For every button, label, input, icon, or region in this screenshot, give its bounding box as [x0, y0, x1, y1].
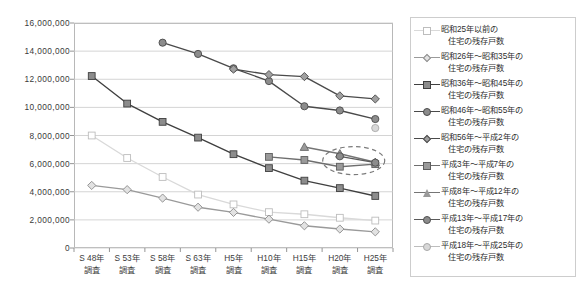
legend-label-line2: 住宅の残存戸数 [441, 63, 523, 75]
legend-item-9[interactable]: 平成18年～平成25年の住宅の残存戸数 [413, 240, 573, 267]
legend-label-line1: 昭和36年～昭和45年の [441, 78, 523, 90]
legend-item-5[interactable]: 昭和56年～平成2年の住宅の残存戸数 [413, 132, 573, 159]
legend-marker-glyph [423, 81, 431, 89]
legend-marker-circle-icon [413, 241, 441, 252]
x-tick-line1: H25年 [352, 252, 398, 264]
legend-marker-glyph [423, 162, 431, 170]
legend-label: 昭和26年～昭和35年の住宅の残存戸数 [441, 51, 523, 74]
legend-marker-glyph [423, 243, 431, 251]
legend-item-6[interactable]: 平成3年～平成7年の住宅の残存戸数 [413, 159, 573, 186]
legend-label: 平成8年～平成12年の住宅の残存戸数 [441, 186, 519, 209]
y-axis-tick-label: 0 [4, 243, 70, 253]
legend-marker-glyph [423, 134, 431, 142]
y-axis-tick-label: 10,000,000 [4, 102, 70, 112]
x-axis-tick-label: H25年調査 [352, 252, 398, 276]
legend-label-line1: 平成3年～平成7年の [441, 159, 514, 171]
legend-label-line1: 昭和26年～昭和35年の [441, 51, 523, 63]
legend-label-line2: 住宅の残存戸数 [441, 90, 523, 102]
legend-label-line1: 昭和25年以前の [441, 24, 504, 36]
legend-label-line2: 住宅の残存戸数 [441, 171, 514, 183]
legend-label-line2: 住宅の残存戸数 [441, 144, 519, 156]
legend-label-line2: 住宅の残存戸数 [441, 36, 504, 48]
legend-label-line2: 住宅の残存戸数 [441, 117, 523, 129]
y-axis-tick-label: 14,000,000 [4, 46, 70, 56]
legend-label-line1: 平成13年～平成17年の [441, 213, 523, 225]
plot-area [74, 23, 393, 248]
y-axis-tick-label: 12,000,000 [4, 74, 70, 84]
chart-legend: 昭和25年以前の住宅の残存戸数昭和26年～昭和35年の住宅の残存戸数昭和36年～… [410, 17, 576, 277]
legend-label: 昭和36年～昭和45年の住宅の残存戸数 [441, 78, 523, 101]
legend-label-line1: 昭和56年～平成2年の [441, 132, 519, 144]
legend-item-1[interactable]: 昭和25年以前の住宅の残存戸数 [413, 24, 573, 51]
y-axis-tick-label: 4,000,000 [4, 187, 70, 197]
legend-marker-glyph [423, 27, 431, 35]
legend-marker-glyph [423, 108, 431, 116]
legend-label: 平成18年～平成25年の住宅の残存戸数 [441, 240, 523, 263]
legend-marker-square-icon [413, 25, 441, 36]
legend-item-4[interactable]: 昭和46年～昭和55年の住宅の残存戸数 [413, 105, 573, 132]
legend-marker-glyph [423, 53, 431, 61]
legend-marker-square-icon [413, 79, 441, 90]
y-axis-tick-label: 8,000,000 [4, 131, 70, 141]
legend-label-line2: 住宅の残存戸数 [441, 198, 519, 210]
legend-marker-triangle-icon [413, 187, 441, 198]
legend-item-7[interactable]: 平成8年～平成12年の住宅の残存戸数 [413, 186, 573, 213]
legend-marker-glyph [423, 189, 431, 197]
y-axis-tick-label: 16,000,000 [4, 18, 70, 28]
chart-root: 16,000,00014,000,00012,000,00010,000,000… [0, 0, 583, 295]
legend-marker-circle-icon [413, 214, 441, 225]
legend-item-2[interactable]: 昭和26年～昭和35年の住宅の残存戸数 [413, 51, 573, 78]
legend-label-line1: 昭和46年～昭和55年の [441, 105, 523, 117]
legend-label: 昭和46年～昭和55年の住宅の残存戸数 [441, 105, 523, 128]
x-tick-line2: 調査 [352, 264, 398, 276]
legend-marker-square-icon [413, 160, 441, 171]
legend-label: 昭和25年以前の住宅の残存戸数 [441, 24, 504, 47]
y-axis-tick-label: 6,000,000 [4, 159, 70, 169]
legend-label-line1: 平成18年～平成25年の [441, 240, 523, 252]
y-axis-labels: 16,000,00014,000,00012,000,00010,000,000… [2, 23, 70, 248]
legend-marker-diamond-icon [413, 52, 441, 63]
legend-marker-glyph [423, 216, 431, 224]
x-axis-labels: S 48年調査S 53年調査S 58年調査S 63年調査H5年調査H10年調査H… [74, 252, 393, 292]
legend-item-3[interactable]: 昭和36年～昭和45年の住宅の残存戸数 [413, 78, 573, 105]
legend-marker-circle-icon [413, 106, 441, 117]
legend-item-8[interactable]: 平成13年～平成17年の住宅の残存戸数 [413, 213, 573, 240]
legend-label-line1: 平成8年～平成12年の [441, 186, 519, 198]
legend-label-line2: 住宅の残存戸数 [441, 252, 523, 264]
legend-label: 昭和56年～平成2年の住宅の残存戸数 [441, 132, 519, 155]
legend-marker-diamond-icon [413, 133, 441, 144]
y-axis-tick-label: 2,000,000 [4, 215, 70, 225]
legend-label: 平成3年～平成7年の住宅の残存戸数 [441, 159, 514, 182]
legend-label: 平成13年～平成17年の住宅の残存戸数 [441, 213, 523, 236]
legend-label-line2: 住宅の残存戸数 [441, 225, 523, 237]
